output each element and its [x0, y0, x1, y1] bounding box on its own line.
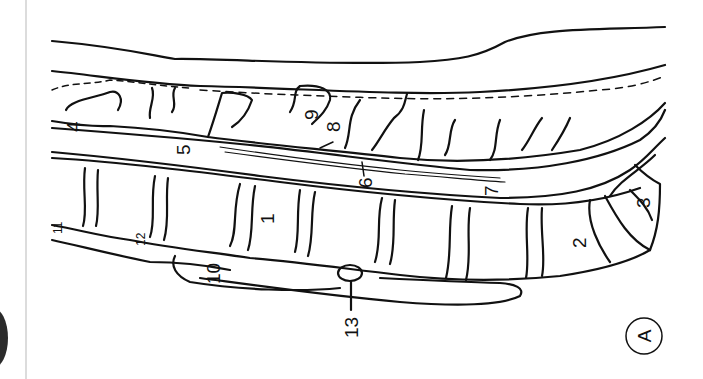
label-8: 8	[323, 121, 344, 132]
label-12: 12	[134, 232, 148, 246]
label-3: 3	[633, 197, 654, 208]
left-panel	[0, 0, 25, 379]
spine-diagram: 4 5 9 8 6 7 1 2 3 10 13 11 12 A	[27, 0, 703, 379]
label-1: 1	[257, 213, 278, 224]
label-13: 13	[341, 317, 362, 338]
panel-label-a: A	[634, 329, 655, 342]
label-7: 7	[481, 185, 502, 196]
label-2: 2	[569, 237, 590, 248]
label-6: 6	[355, 177, 376, 188]
label-5: 5	[173, 144, 194, 155]
diagram-canvas: 4 5 9 8 6 7 1 2 3 10 13 11 12 A	[27, 0, 703, 379]
dark-circle-partial[interactable]	[0, 308, 8, 368]
label-11: 11	[51, 221, 65, 234]
label-9: 9	[301, 109, 322, 120]
label-4: 4	[63, 121, 84, 132]
label-10: 10	[203, 263, 224, 284]
